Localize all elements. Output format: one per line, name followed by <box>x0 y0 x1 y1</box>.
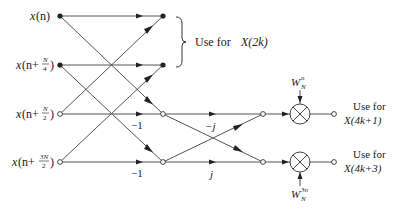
twiddle-bottom: W 3n N <box>291 186 309 203</box>
svg-text:N: N <box>300 195 306 203</box>
svg-text:): ) <box>50 107 54 121</box>
svg-text:x: x <box>15 107 22 121</box>
svg-text:2: 2 <box>43 114 47 122</box>
svg-text:x: x <box>29 9 36 23</box>
node-even-1 <box>160 62 165 67</box>
svg-text:X(4k+3): X(4k+3) <box>343 162 382 175</box>
input-label-x-n: x (n) <box>29 9 50 23</box>
svg-text:W: W <box>291 188 301 200</box>
svg-text:Use for: Use for <box>353 100 386 112</box>
node-stage2-0 <box>261 112 266 117</box>
output-label-4k-plus-3: Use for X(4k+3) <box>343 148 386 175</box>
svg-text:Use for: Use for <box>353 148 386 160</box>
split-radix-flow-graph: x (n) x (n+ N 4 ) x (n+ N 2 ) x (n+ 3N 2… <box>0 0 396 216</box>
svg-text:X(4k+1): X(4k+1) <box>343 114 382 127</box>
gain-minus-j: −j <box>205 120 215 132</box>
node-input-1 <box>57 62 62 67</box>
svg-text:(n): (n) <box>36 9 50 23</box>
svg-text:): ) <box>50 155 54 169</box>
output-label-4k-plus-1: Use for X(4k+1) <box>343 100 386 127</box>
gain-minus-1-lower: −1 <box>131 167 143 179</box>
gain-j: j <box>208 168 213 180</box>
svg-text:x: x <box>15 58 22 72</box>
node-diff-0 <box>161 112 166 117</box>
svg-text:(n+: (n+ <box>22 58 39 72</box>
output-label-even: Use for X(2k) <box>195 35 268 49</box>
node-even-0 <box>160 13 165 18</box>
svg-text:4: 4 <box>43 65 47 73</box>
stage1-edges <box>60 14 163 165</box>
svg-text:): ) <box>50 58 54 72</box>
node-input-3 <box>58 160 63 165</box>
node-input-0 <box>57 13 62 18</box>
svg-text:(n+: (n+ <box>18 155 35 169</box>
svg-text:3n: 3n <box>300 186 309 194</box>
node-output-1 <box>332 160 337 165</box>
curly-brace <box>176 17 186 67</box>
node-input-2 <box>58 112 63 117</box>
svg-text:N: N <box>300 83 306 91</box>
svg-text:x: x <box>11 155 18 169</box>
node-stage2-1 <box>261 160 266 165</box>
svg-text:N: N <box>42 105 48 113</box>
svg-text:n: n <box>301 74 305 82</box>
flow-graph-canvas: x (n) x (n+ N 4 ) x (n+ N 2 ) x (n+ 3N 2… <box>0 0 396 216</box>
svg-text:X(2k): X(2k) <box>240 35 268 49</box>
node-output-0 <box>332 112 337 117</box>
input-label-x-n-plus-n-over-2: x (n+ N 2 ) <box>15 105 54 122</box>
svg-text:3N: 3N <box>39 153 49 161</box>
gain-minus-1-upper: −1 <box>131 119 143 131</box>
svg-text:(n+: (n+ <box>22 107 39 121</box>
node-diff-1 <box>161 160 166 165</box>
svg-text:Use for: Use for <box>195 35 231 49</box>
input-label-x-n-plus-n-over-4: x (n+ N 4 ) <box>15 56 54 73</box>
svg-text:W: W <box>291 76 301 88</box>
input-label-x-n-plus-3n-over-2: x (n+ 3N 2 ) <box>11 153 54 170</box>
svg-text:2: 2 <box>42 162 46 170</box>
multiplier-bottom <box>263 152 334 186</box>
multiplier-top <box>263 90 334 124</box>
svg-text:N: N <box>42 56 48 64</box>
twiddle-top: W n N <box>291 74 306 91</box>
